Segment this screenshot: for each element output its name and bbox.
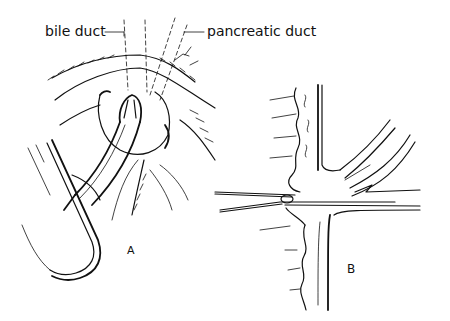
cannula-tip — [120, 95, 142, 122]
panel-a-drawing — [22, 18, 215, 280]
dashed-ducts — [124, 18, 187, 100]
panel-b-label: B — [347, 263, 355, 275]
lower-tissue — [112, 160, 188, 220]
mucosal-folds-upper — [289, 88, 300, 192]
endoscope-shaft — [64, 122, 140, 210]
panel-a-label: A — [127, 245, 135, 256]
pancreatic-duct-label: pancreatic duct — [207, 24, 316, 38]
bile-duct-b — [340, 120, 390, 170]
medical-illustration: bile duct pancreatic duct A B — [0, 0, 450, 321]
j-shaped-instrument — [22, 140, 100, 280]
tissue-folds — [48, 47, 215, 160]
illustration-drawing — [0, 0, 450, 321]
mucosal-folds-lower — [301, 225, 306, 310]
bile-duct-label: bile duct — [45, 24, 106, 38]
panel-b-drawing — [215, 85, 420, 310]
